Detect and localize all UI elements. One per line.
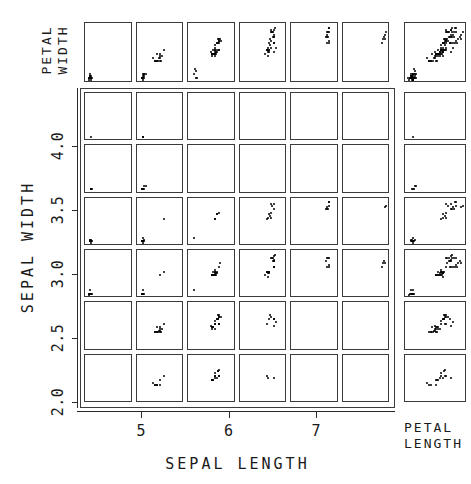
grid-panel-r1-c3 xyxy=(239,144,287,192)
data-point xyxy=(218,369,220,371)
data-point xyxy=(141,77,143,79)
data-point xyxy=(444,369,446,371)
data-point xyxy=(159,331,161,333)
data-point xyxy=(445,212,447,214)
data-point xyxy=(440,47,442,49)
data-point xyxy=(193,289,195,291)
data-point xyxy=(211,53,213,55)
data-point xyxy=(328,201,330,203)
data-point xyxy=(270,47,272,49)
data-point xyxy=(412,79,414,81)
data-point xyxy=(452,266,454,268)
data-point xyxy=(445,49,447,51)
data-point xyxy=(141,77,143,79)
data-point xyxy=(453,36,455,38)
data-point xyxy=(159,60,161,62)
data-point xyxy=(455,40,457,42)
data-point xyxy=(194,68,196,70)
data-point xyxy=(325,260,327,262)
data-point xyxy=(409,77,411,79)
data-point xyxy=(216,377,218,379)
data-point xyxy=(161,55,163,57)
data-point xyxy=(214,53,216,55)
data-point xyxy=(142,77,144,79)
data-point xyxy=(436,331,438,333)
data-point xyxy=(412,73,414,75)
data-point xyxy=(271,31,273,33)
data-point xyxy=(141,293,143,295)
data-point xyxy=(412,289,414,291)
data-point xyxy=(163,218,165,220)
data-point xyxy=(143,188,145,190)
data-point xyxy=(214,218,216,220)
data-point xyxy=(141,240,143,242)
data-point xyxy=(214,328,216,330)
data-point xyxy=(216,213,218,215)
grid-panel-r3-c4 xyxy=(290,249,338,297)
data-point xyxy=(437,326,439,328)
data-point xyxy=(193,237,195,239)
y-axis-tick xyxy=(72,274,78,275)
top-marginal-panel-3 xyxy=(239,22,287,82)
data-point xyxy=(328,40,330,42)
data-point xyxy=(273,36,275,38)
grid-panel-r1-c2 xyxy=(187,144,235,192)
data-point xyxy=(328,31,330,33)
data-point xyxy=(443,370,445,372)
data-point xyxy=(154,331,156,333)
data-point xyxy=(156,331,158,333)
data-point xyxy=(90,239,92,241)
data-point xyxy=(215,274,217,276)
data-point xyxy=(411,77,413,79)
data-point xyxy=(91,77,93,79)
data-point xyxy=(141,77,143,79)
data-point xyxy=(267,55,269,57)
data-point xyxy=(443,271,445,273)
data-point xyxy=(156,384,158,386)
data-point xyxy=(410,239,412,241)
data-point xyxy=(413,293,415,295)
data-point xyxy=(196,77,198,79)
data-point xyxy=(453,257,455,259)
data-point xyxy=(445,375,447,377)
data-point xyxy=(212,49,214,51)
data-point xyxy=(454,27,456,29)
data-point xyxy=(90,188,92,190)
data-point xyxy=(211,328,213,330)
data-point xyxy=(89,75,91,77)
data-point xyxy=(441,272,443,274)
data-point xyxy=(384,34,386,36)
data-point xyxy=(453,31,455,33)
data-point xyxy=(408,79,410,81)
data-point xyxy=(415,77,417,79)
data-point xyxy=(448,36,450,38)
data-point xyxy=(212,53,214,55)
data-point xyxy=(269,314,271,316)
x-axis-tick xyxy=(141,412,142,418)
data-point xyxy=(442,271,444,273)
data-point xyxy=(442,272,444,274)
data-point xyxy=(426,57,428,59)
data-point xyxy=(270,40,272,42)
data-point xyxy=(413,73,415,75)
data-point xyxy=(445,38,447,40)
data-point xyxy=(268,271,270,273)
data-point xyxy=(193,73,195,75)
data-point xyxy=(456,266,458,268)
y-axis-tick-label: 2.0 xyxy=(49,382,67,422)
data-point xyxy=(273,266,275,268)
y-axis-tick xyxy=(72,146,78,147)
data-point xyxy=(142,75,144,77)
data-point xyxy=(454,201,456,203)
data-point xyxy=(90,240,92,242)
data-point xyxy=(411,77,413,79)
data-point xyxy=(436,326,438,328)
data-point xyxy=(415,185,417,187)
data-point xyxy=(442,272,444,274)
data-point xyxy=(145,73,147,75)
data-point xyxy=(90,77,92,79)
data-point xyxy=(213,274,215,276)
grid-panel-r2-c5 xyxy=(342,197,390,245)
data-point xyxy=(268,49,270,51)
right-marginal-panel-3 xyxy=(404,249,466,297)
